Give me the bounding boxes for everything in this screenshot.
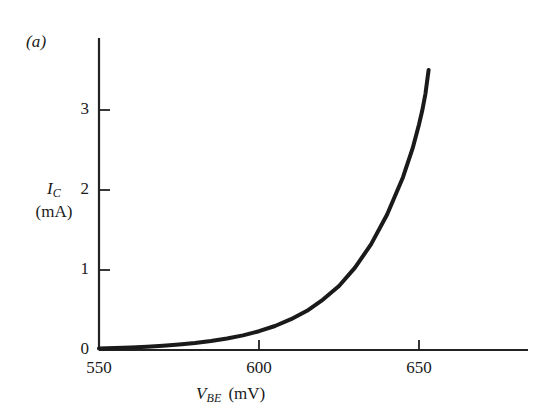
x-axis-subscript: BE <box>206 391 221 405</box>
y-axis-unit: (mA) <box>18 201 90 222</box>
x-tick-label: 550 <box>69 358 129 378</box>
x-axis-symbol: V <box>196 384 206 403</box>
y-tick-label: 1 <box>67 259 89 279</box>
y-tick-label: 3 <box>67 99 89 119</box>
y-axis-subscript: C <box>53 186 61 200</box>
x-axis-label: VBE(mV) <box>196 384 265 406</box>
y-tick-label: 0 <box>67 339 89 359</box>
y-axis-label: IC (mA) <box>18 178 90 223</box>
figure-container: (a) 0123 550600650 IC (mA) VBE(mV) <box>0 0 554 419</box>
tick-marks <box>99 110 419 350</box>
x-tick-label: 600 <box>229 358 289 378</box>
axis-lines <box>99 38 528 350</box>
x-tick-label: 650 <box>389 358 449 378</box>
ic-vbe-curve <box>99 70 429 348</box>
x-axis-unit: (mV) <box>228 384 265 403</box>
data-curve <box>99 70 429 348</box>
